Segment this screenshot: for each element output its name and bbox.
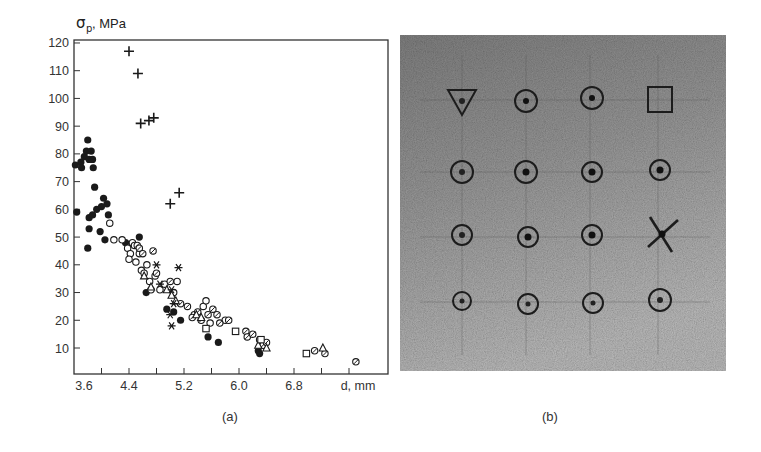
x-tick-label: 6.0 xyxy=(230,379,247,393)
caption-a: (a) xyxy=(222,409,238,424)
y-tick-label: 100 xyxy=(48,92,69,106)
y-axis-ticks: 102030405060708090100110120 xyxy=(48,36,80,355)
x-tick-label: 5.2 xyxy=(175,379,192,393)
y-tick-label: 70 xyxy=(55,175,69,189)
y-tick-label: 30 xyxy=(55,286,69,300)
y-axis-title: σ p , MPa xyxy=(76,14,127,34)
x-tick-label: 4.4 xyxy=(120,379,137,393)
x-tick-label: 3.6 xyxy=(75,379,92,393)
y-tick-label: 110 xyxy=(49,64,69,78)
y-tick-label: 90 xyxy=(55,120,69,134)
y-tick-label: 10 xyxy=(55,342,69,356)
stress-vs-diameter-chart: σ p , MPa 102030405060708090100110120 3.… xyxy=(0,0,400,452)
data-points xyxy=(72,46,359,365)
plot-frame xyxy=(74,40,388,374)
y-axis-title-sigma: σ xyxy=(76,14,86,32)
y-tick-label: 50 xyxy=(55,231,69,245)
y-tick-label: 60 xyxy=(55,203,69,217)
y-tick-label: 120 xyxy=(48,36,69,50)
y-tick-label: 20 xyxy=(55,314,69,328)
x-axis-ticks: 3.64.45.26.06.8 xyxy=(75,368,349,393)
x-axis-title: d, mm xyxy=(341,379,376,393)
y-axis-title-unit: , MPa xyxy=(92,16,127,31)
caption-b: (b) xyxy=(542,409,558,424)
y-tick-label: 40 xyxy=(55,258,69,272)
y-tick-label: 80 xyxy=(55,147,69,161)
specimen-photo xyxy=(400,35,726,371)
x-tick-label: 6.8 xyxy=(285,379,302,393)
